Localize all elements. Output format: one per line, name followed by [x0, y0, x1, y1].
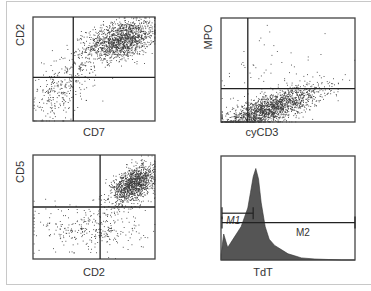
- data-point: [129, 170, 130, 171]
- data-point: [89, 209, 90, 210]
- data-point: [142, 164, 143, 165]
- data-point: [141, 246, 142, 247]
- data-point: [295, 104, 296, 105]
- data-point: [122, 35, 123, 36]
- data-point: [133, 35, 134, 36]
- data-point: [306, 104, 307, 105]
- data-point: [135, 225, 136, 226]
- data-point: [127, 184, 128, 185]
- data-point: [129, 195, 130, 196]
- data-point: [270, 113, 271, 114]
- data-point: [50, 91, 51, 92]
- data-point: [122, 205, 123, 206]
- data-point: [108, 53, 109, 54]
- data-point: [144, 44, 145, 45]
- data-point: [101, 60, 102, 61]
- data-point: [84, 231, 85, 232]
- data-point: [129, 51, 130, 52]
- data-point: [124, 27, 125, 28]
- data-point: [330, 93, 331, 94]
- data-point: [80, 69, 81, 70]
- data-point: [141, 22, 142, 23]
- data-point: [255, 111, 256, 112]
- data-point: [298, 96, 299, 97]
- data-point: [143, 247, 144, 248]
- data-point: [48, 92, 49, 93]
- data-point: [240, 110, 241, 111]
- data-point: [75, 91, 76, 92]
- data-point: [134, 184, 135, 185]
- data-point: [71, 232, 72, 233]
- data-point: [284, 92, 285, 93]
- data-point: [235, 116, 236, 117]
- data-point: [99, 41, 100, 42]
- data-point: [138, 36, 139, 37]
- data-point: [308, 106, 309, 107]
- data-point: [255, 67, 256, 68]
- data-point: [134, 221, 135, 222]
- data-point: [57, 227, 58, 228]
- data-point: [142, 31, 143, 32]
- data-point: [83, 65, 84, 66]
- data-point: [320, 100, 321, 101]
- data-point: [55, 116, 56, 117]
- data-point: [121, 30, 122, 31]
- data-point: [94, 80, 95, 81]
- data-point: [78, 75, 79, 76]
- data-point: [95, 35, 96, 36]
- data-point: [139, 239, 140, 240]
- data-point: [270, 117, 271, 118]
- data-point: [139, 233, 140, 234]
- data-point: [130, 237, 131, 238]
- data-point: [240, 113, 241, 114]
- data-point: [145, 43, 146, 44]
- data-point: [128, 192, 129, 193]
- data-point: [278, 113, 279, 114]
- data-point: [309, 91, 310, 92]
- data-point: [115, 47, 116, 48]
- data-point: [104, 236, 105, 237]
- data-point: [145, 195, 146, 196]
- data-point: [34, 234, 35, 235]
- data-point: [131, 189, 132, 190]
- data-point: [103, 60, 104, 61]
- data-point: [85, 212, 86, 213]
- data-point: [304, 95, 305, 96]
- data-point: [101, 34, 102, 35]
- data-point: [279, 102, 280, 103]
- data-point: [103, 43, 104, 44]
- data-point: [110, 60, 111, 61]
- data-point: [34, 201, 35, 202]
- data-point: [117, 44, 118, 45]
- data-point: [262, 117, 263, 118]
- data-point: [227, 114, 228, 115]
- data-point: [150, 171, 151, 172]
- data-point: [139, 42, 140, 43]
- data-point: [280, 104, 281, 105]
- data-point: [276, 118, 277, 119]
- data-point: [132, 196, 133, 197]
- data-point: [141, 37, 142, 38]
- data-point: [133, 42, 134, 43]
- data-point: [119, 196, 120, 197]
- data-point: [76, 81, 77, 82]
- data-point: [138, 38, 139, 39]
- data-point: [112, 53, 113, 54]
- data-point: [301, 112, 302, 113]
- data-point: [260, 102, 261, 103]
- data-point: [266, 115, 267, 116]
- data-point: [127, 30, 128, 31]
- data-point: [305, 86, 306, 87]
- data-point: [287, 98, 288, 99]
- data-point: [126, 45, 127, 46]
- data-point: [90, 49, 91, 50]
- data-point: [112, 203, 113, 204]
- data-point: [246, 120, 247, 121]
- data-point: [142, 166, 143, 167]
- data-point: [139, 176, 140, 177]
- data-point: [292, 83, 293, 84]
- data-point: [123, 175, 124, 176]
- data-point: [71, 238, 72, 239]
- data-point: [61, 57, 62, 58]
- data-point: [288, 102, 289, 103]
